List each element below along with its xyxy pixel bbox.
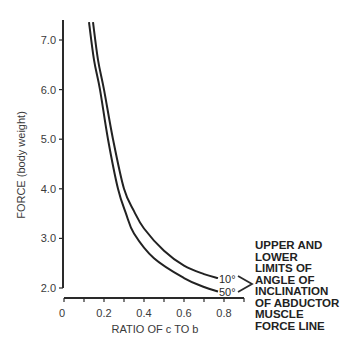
- curve-50-degrees: [89, 22, 218, 291]
- annotation-line: LIMITS OF: [255, 263, 339, 275]
- curve-label-50: 50°: [219, 286, 236, 298]
- y-ticks: 2.03.04.05.06.07.0: [41, 34, 63, 294]
- annotation-text: UPPER ANDLOWERLIMITS OFANGLE OFINCLINATI…: [255, 240, 339, 332]
- x-ticks: 00.20.40.60.8: [59, 298, 244, 319]
- annotation-line: FORCE LINE: [255, 321, 339, 333]
- annotation-line: UPPER AND: [255, 240, 339, 252]
- x-tick-label: 0.8: [216, 307, 231, 319]
- y-tick-label: 5.0: [41, 133, 56, 145]
- annotation-line: INCLINATION: [255, 286, 339, 298]
- x-tick-label: 0.4: [136, 307, 151, 319]
- y-tick-label: 4.0: [41, 183, 56, 195]
- y-tick-label: 6.0: [41, 84, 56, 96]
- curve-label-10: 10°: [219, 273, 236, 285]
- curves: [89, 22, 218, 291]
- x-tick-label: 0.2: [96, 307, 111, 319]
- curve-10-degrees: [93, 22, 218, 278]
- bracket-icon: [238, 276, 252, 292]
- y-tick-label: 2.0: [41, 282, 56, 294]
- y-tick-label: 3.0: [41, 232, 56, 244]
- x-tick-label: 0: [59, 307, 65, 319]
- y-axis-label: FORCE (body weight): [15, 111, 27, 219]
- x-axis-label: RATIO OF c TO b: [112, 323, 199, 335]
- x-tick-label: 0.6: [176, 307, 191, 319]
- annotation-line: MUSCLE: [255, 309, 339, 321]
- y-tick-label: 7.0: [41, 34, 56, 46]
